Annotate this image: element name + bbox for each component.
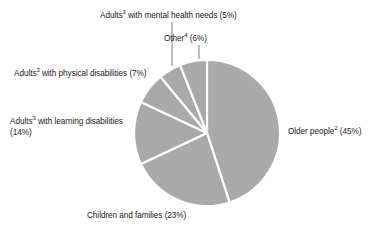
label-text-suffix: with learning disabilities: [36, 117, 123, 126]
pie-slices-group: [134, 60, 280, 206]
label-text-prefix: Older people: [288, 127, 334, 136]
label-text-suffix: (45%): [338, 127, 362, 136]
slice-label-children-and-families: Children and families (23%): [87, 211, 186, 222]
label-text-prefix: Adults: [14, 69, 36, 78]
label-text-suffix: with physical disabilities (7%): [40, 69, 147, 78]
slice-label-adults-physical-disabilities: Adults3 with physical disabilities (7%): [14, 69, 146, 80]
slice-label-adults-mental-health-needs: Adults3 with mental health needs (5%): [100, 11, 237, 22]
label-text-suffix: (6%): [188, 34, 207, 43]
label-text-suffix: with mental health needs (5%): [126, 11, 237, 20]
slice-label-adults-learning-disabilities: Adults3 with learning disabilities (14%): [10, 117, 130, 138]
slice-label-older-people: Older people2 (45%): [288, 127, 361, 138]
label-text-prefix: Adults: [100, 11, 122, 20]
slice-label-other: Other4 (6%): [164, 34, 207, 45]
label-text-prefix: Other: [164, 34, 184, 43]
label-text-prefix: Adults: [10, 117, 32, 126]
label-text-prefix: Children and families (23%): [87, 211, 186, 220]
label-text-value: (14%): [10, 128, 32, 137]
pie-chart-figure: Adults3 with mental health needs (5%) Ot…: [0, 0, 388, 240]
